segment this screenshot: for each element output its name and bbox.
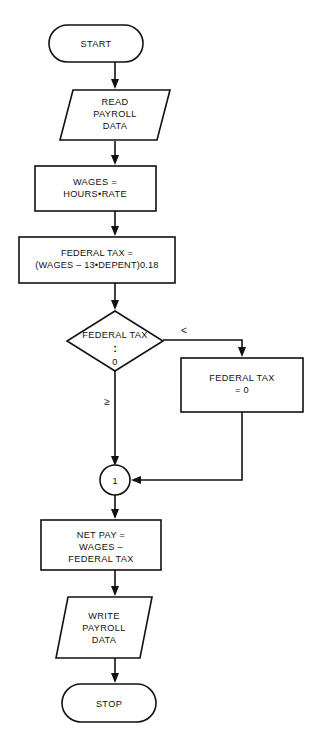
- branch-label-greater-or-equal: ≥: [104, 396, 110, 407]
- node-read-line1: READ: [102, 97, 129, 107]
- node-wages-line1: WAGES =: [73, 177, 117, 187]
- node-federaltax-line1: FEDERAL TAX =: [61, 248, 133, 258]
- edge-federaltax-to-decision: [111, 283, 119, 310]
- node-write-line1: WRITE: [88, 611, 119, 621]
- flowchart-canvas: START READ PAYROLL DATA WAGES = HOURS•RA…: [0, 0, 316, 753]
- node-start[interactable]: START: [49, 25, 143, 62]
- node-read-line3: DATA: [103, 121, 128, 131]
- node-decision-line1: FEDERAL TAX: [82, 330, 147, 340]
- branch-label-less-than: <: [181, 325, 187, 336]
- node-read-payroll-data[interactable]: READ PAYROLL DATA: [60, 90, 170, 140]
- node-stop-label: STOP: [96, 699, 122, 709]
- node-federaltax-line2: (WAGES – 13•DEPENT)0.18: [35, 260, 158, 270]
- edge-wages-to-federaltax: [111, 211, 119, 236]
- node-taxzero-line1: FEDERAL TAX: [209, 373, 274, 383]
- edge-decision-less-to-taxzero: [163, 340, 246, 357]
- flowchart-svg: START READ PAYROLL DATA WAGES = HOURS•RA…: [0, 0, 316, 753]
- node-write-line3: DATA: [92, 635, 117, 645]
- node-netpay-line2: WAGES –: [79, 542, 124, 552]
- node-start-label: START: [80, 39, 111, 49]
- edge-connector-to-netpay: [111, 494, 119, 519]
- node-federal-tax-calc[interactable]: FEDERAL TAX = (WAGES – 13•DEPENT)0.18: [19, 237, 175, 283]
- node-federal-tax-zero[interactable]: FEDERAL TAX = 0: [181, 358, 303, 412]
- node-wages[interactable]: WAGES = HOURS•RATE: [35, 166, 156, 211]
- node-decision-operator: :: [113, 342, 117, 354]
- edge-start-to-read: [111, 62, 119, 89]
- node-decision-line2: 0: [112, 357, 117, 367]
- node-stop[interactable]: STOP: [62, 684, 156, 722]
- node-write-line2: PAYROLL: [82, 623, 125, 633]
- node-netpay-line3: FEDERAL TAX: [68, 554, 133, 564]
- node-connector-label: 1: [112, 476, 117, 486]
- node-wages-line2: HOURS•RATE: [63, 189, 127, 199]
- node-decision-federal-tax[interactable]: FEDERAL TAX : 0: [67, 311, 163, 371]
- node-taxzero-line2: = 0: [235, 385, 249, 395]
- node-netpay-line1: NET PAY =: [77, 530, 126, 540]
- edge-read-to-wages: [111, 141, 119, 165]
- edge-write-to-stop: [111, 658, 119, 683]
- edge-netpay-to-write: [111, 570, 119, 596]
- edge-decision-ge-to-connector: [111, 371, 119, 466]
- node-write-payroll-data[interactable]: WRITE PAYROLL DATA: [56, 597, 152, 658]
- node-read-line2: PAYROLL: [93, 109, 136, 119]
- node-net-pay[interactable]: NET PAY = WAGES – FEDERAL TAX: [41, 520, 161, 570]
- edge-taxzero-to-connector: [131, 412, 242, 484]
- node-connector-1[interactable]: 1: [100, 465, 130, 495]
